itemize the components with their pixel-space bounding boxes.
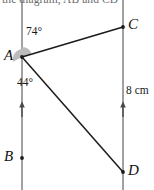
angle-label-44-degrees: 44°	[17, 76, 33, 88]
point-A-dot	[20, 55, 24, 59]
point-label-A: A	[4, 47, 13, 64]
angle-label-74-degrees: 74°	[26, 25, 42, 37]
point-label-C: C	[128, 16, 138, 33]
clipped-question-text: the diagram, AB and CD	[2, 0, 118, 5]
geometry-diagram-screenshot: the diagram, AB and CD A B C D 74° 44° 8…	[0, 0, 154, 190]
point-B-dot	[20, 156, 24, 160]
point-label-B: B	[4, 148, 13, 165]
length-label-8-cm: 8 cm	[126, 84, 149, 96]
point-D-dot	[121, 170, 125, 174]
point-label-D: D	[128, 162, 139, 179]
segment-AD	[22, 57, 123, 172]
point-C-dot	[121, 25, 125, 29]
